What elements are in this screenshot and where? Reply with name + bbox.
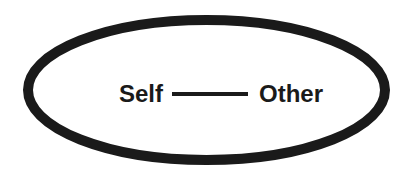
node-other-label: Other [259, 82, 323, 106]
self-other-connector-line [172, 92, 248, 96]
node-self-label: Self [119, 82, 163, 106]
diagram-canvas: Self Other [0, 0, 414, 171]
enclosing-ellipse [0, 0, 414, 171]
